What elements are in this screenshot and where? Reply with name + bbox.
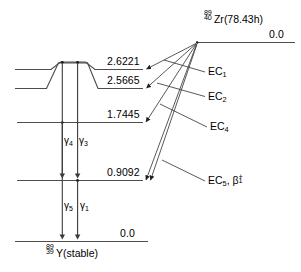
ec2-subscript: 2	[223, 95, 227, 104]
energy-value-2-5665: 2.5665	[107, 75, 140, 86]
gamma3-subscript: 3	[84, 140, 88, 147]
ec4-base: EC	[210, 120, 225, 132]
parent-nuclide-numbers: 89 40	[204, 12, 214, 23]
decay-scheme-diagram: 89 40 Zr(78.43h) 0.0 2.6221 2.5665 1.744…	[0, 0, 301, 272]
gamma-label-4: γ4	[64, 136, 73, 146]
parent-halflife: (78.43h)	[224, 13, 263, 25]
transition-label-ec1: EC1	[208, 66, 227, 77]
transition-label-ec4: EC4	[210, 121, 229, 132]
parent-energy-value: 0.0	[269, 29, 284, 40]
ec2-base: EC	[208, 90, 223, 102]
energy-value-0-9092: 0.9092	[107, 167, 140, 178]
energy-value-2-6221: 2.6221	[107, 56, 140, 67]
daughter-atomic-number: 39	[46, 249, 54, 256]
parent-symbol: Zr	[214, 13, 224, 25]
gamma4-origin-node	[61, 61, 64, 64]
gamma1-subscript: 1	[85, 205, 89, 212]
parent-atomic-number: 40	[204, 15, 212, 22]
ec1-base: EC	[208, 65, 223, 77]
gamma5-subscript: 5	[69, 205, 73, 212]
daughter-symbol: Y	[56, 247, 63, 259]
ec5-subscript: 5	[223, 179, 227, 188]
ec-arrow-3	[146, 44, 196, 122]
daughter-nuclide-label: 89 39 Y(stable)	[46, 246, 98, 258]
daughter-energy-value: 0.0	[120, 228, 135, 239]
ec-arrow-5	[151, 44, 197, 180]
gamma-label-5: γ5	[64, 201, 73, 211]
gamma-label-3: γ3	[79, 136, 88, 146]
daughter-stability: (stable)	[63, 247, 98, 259]
parent-nuclide-label: 89 40 Zr(78.43h)	[204, 12, 263, 24]
beta-plus-group: β1+	[233, 175, 239, 186]
leader-line-ec5	[162, 160, 205, 181]
beta-superscript: +	[239, 173, 243, 180]
transition-label-ec5-beta: EC5, β1+	[208, 175, 239, 186]
ec5-base: EC	[208, 174, 223, 186]
transition-label-ec2: EC2	[208, 91, 227, 102]
gamma3-origin-node	[76, 61, 79, 64]
ec4-subscript: 4	[225, 125, 229, 134]
ec1-subscript: 1	[223, 70, 227, 79]
daughter-nuclide-numbers: 89 39	[46, 246, 56, 257]
ec-arrow-4	[146, 44, 197, 180]
decay-scheme-canvas	[0, 0, 301, 272]
energy-value-1-7445: 1.7445	[107, 109, 140, 120]
gamma4-subscript: 4	[69, 140, 73, 147]
gamma-label-1: γ1	[80, 201, 89, 211]
parent-level-node	[196, 41, 199, 44]
